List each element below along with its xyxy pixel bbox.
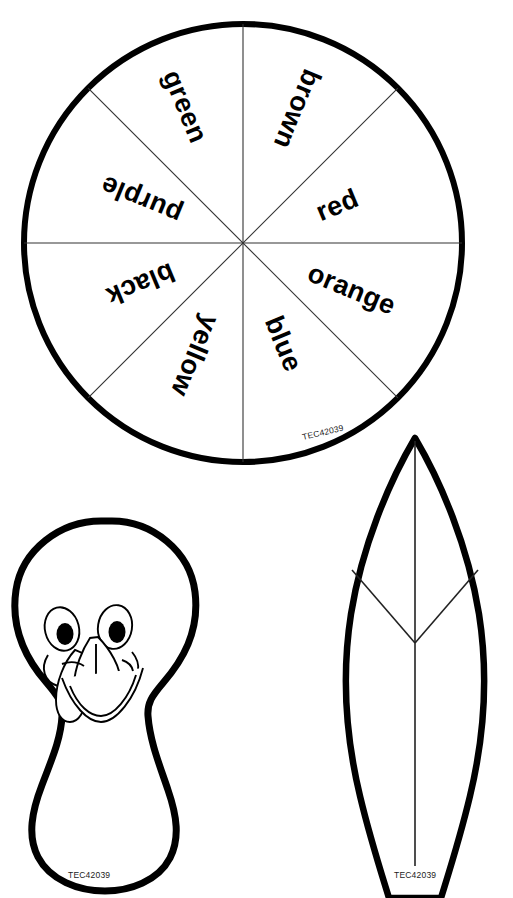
worksheet-page: brown red orange blue yellow	[0, 0, 513, 898]
turkey-right-pupil	[109, 621, 126, 643]
turkey-body-pattern[interactable]: TEC42039	[15, 521, 196, 891]
color-spinner-wheel[interactable]: brown red orange blue yellow	[24, 24, 462, 462]
turkey-feather-pattern[interactable]: TEC42039	[346, 438, 484, 898]
pattern-artwork: brown red orange blue yellow	[0, 0, 513, 898]
spinner-divider-lines	[24, 24, 462, 462]
turkey-left-pupil	[57, 623, 74, 645]
feather-code-label: TEC42039	[394, 870, 436, 880]
turkey-body-code-label: TEC42039	[68, 870, 110, 880]
